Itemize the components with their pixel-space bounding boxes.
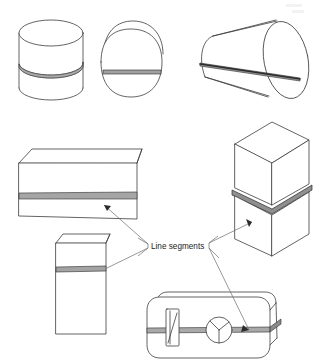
cylinder-end-face xyxy=(101,29,162,97)
cut-line-segment-end-on-cylinder xyxy=(103,70,161,74)
shape-wide-flat-box xyxy=(19,149,142,219)
shape-rounded-prism xyxy=(147,292,281,358)
shape-stacked-vertical-box xyxy=(232,122,312,256)
box-front-face xyxy=(19,163,137,219)
cylinder-top-face xyxy=(19,20,83,46)
cut-line-segment-wide-box xyxy=(19,192,137,199)
diagram-canvas: Line segments xyxy=(0,0,319,364)
narrow-box-top-face xyxy=(56,234,110,243)
line-segments-label: Line segments xyxy=(151,242,204,251)
box-top-face xyxy=(19,149,142,163)
cut-line-segment-narrow-box xyxy=(56,266,106,272)
narrow-box-front-face xyxy=(56,243,106,334)
shape-tall-narrow-box xyxy=(56,234,110,334)
prism-slot-feature xyxy=(166,309,179,346)
prism-boss-feature xyxy=(206,317,232,343)
line-segments-diagram: Line segments xyxy=(0,0,319,364)
